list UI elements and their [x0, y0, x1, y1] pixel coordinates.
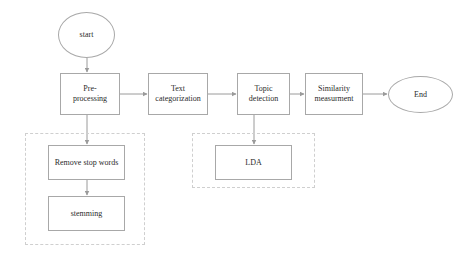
- node-topic-detection[interactable]: Topic detection: [237, 73, 290, 115]
- node-start[interactable]: start: [58, 12, 115, 58]
- node-preprocessing[interactable]: Pre- processing: [60, 73, 120, 115]
- node-remove-stop-words-label: Remove stop words: [55, 158, 119, 168]
- flowchart-canvas: start Pre- processing Text categorizatio…: [0, 0, 465, 254]
- node-preprocessing-label: Pre- processing: [73, 84, 107, 104]
- node-text-categorization-label: Text categorization: [155, 84, 200, 104]
- node-stemming[interactable]: stemming: [48, 196, 125, 231]
- node-end-label: End: [414, 90, 427, 100]
- node-similarity-measurement[interactable]: Similarity measurment: [305, 73, 363, 115]
- node-stemming-label: stemming: [71, 209, 103, 219]
- node-text-categorization[interactable]: Text categorization: [148, 73, 208, 115]
- node-similarity-measurement-label: Similarity measurment: [314, 84, 353, 104]
- node-start-label: start: [80, 30, 94, 40]
- node-lda[interactable]: LDA: [215, 145, 292, 180]
- node-topic-detection-label: Topic detection: [249, 84, 278, 104]
- node-end[interactable]: End: [388, 76, 453, 113]
- node-lda-label: LDA: [245, 158, 261, 168]
- node-remove-stop-words[interactable]: Remove stop words: [48, 145, 125, 180]
